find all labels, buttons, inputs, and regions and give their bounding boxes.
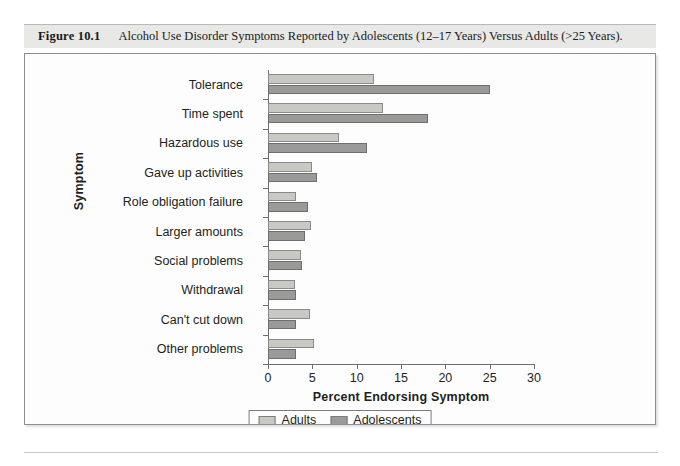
figure-caption-bar: Figure 10.1 Alcohol Use Disorder Symptom… xyxy=(24,24,656,48)
x-tick xyxy=(312,364,313,369)
bar-row: Role obligation failure xyxy=(25,188,655,217)
category-label: Time spent xyxy=(182,107,243,121)
bar-adolescents xyxy=(268,261,302,271)
legend-label: Adults xyxy=(282,413,317,425)
bar-group xyxy=(268,276,648,305)
x-tick xyxy=(268,364,269,369)
legend-item-adolescents: Adolescents xyxy=(330,413,421,425)
bar-adolescents xyxy=(268,114,428,124)
category-label: Larger amounts xyxy=(155,225,243,239)
x-tick xyxy=(534,364,535,369)
bar-group xyxy=(268,158,648,187)
legend-item-adults: Adults xyxy=(259,413,317,425)
bar-adults xyxy=(268,162,312,172)
x-tick xyxy=(445,364,446,369)
plot-area: Symptom ToleranceTime spentHazardous use… xyxy=(25,54,655,424)
bar-adolescents xyxy=(268,202,308,212)
legend-swatch-icon xyxy=(259,416,276,425)
category-label: Role obligation failure xyxy=(123,195,243,209)
x-tick-label: 25 xyxy=(483,371,497,385)
x-tick-label: 30 xyxy=(527,371,541,385)
bar-row: Withdrawal xyxy=(25,276,655,305)
bar-group xyxy=(268,129,648,158)
bar-adults xyxy=(268,192,296,202)
legend-label: Adolescents xyxy=(353,413,421,425)
bar-row: Time spent xyxy=(25,99,655,128)
category-label: Gave up activities xyxy=(144,166,243,180)
chart-legend: AdultsAdolescents xyxy=(249,410,432,425)
x-tick-label: 10 xyxy=(350,371,364,385)
bar-group xyxy=(268,305,648,334)
bar-adolescents xyxy=(268,143,367,153)
bar-adults xyxy=(268,339,314,349)
bar-adolescents xyxy=(268,85,490,95)
bar-group xyxy=(268,246,648,275)
x-tick-label: 20 xyxy=(438,371,452,385)
bar-adolescents xyxy=(268,231,305,241)
bar-adolescents xyxy=(268,173,317,183)
x-tick-label: 5 xyxy=(309,371,316,385)
x-tick xyxy=(357,364,358,369)
bar-adults xyxy=(268,74,374,84)
bar-adults xyxy=(268,250,301,260)
figure-number: Figure 10.1 xyxy=(38,29,100,44)
bar-adults xyxy=(268,103,383,113)
legend-swatch-icon xyxy=(330,416,347,425)
bar-row: Larger amounts xyxy=(25,217,655,246)
bar-adults xyxy=(268,309,310,319)
figure-caption-text: Alcohol Use Disorder Symptoms Reported b… xyxy=(118,29,622,44)
bar-adults xyxy=(268,133,339,143)
bar-row: Tolerance xyxy=(25,70,655,99)
category-label: Other problems xyxy=(157,342,243,356)
bar-rows: ToleranceTime spentHazardous useGave up … xyxy=(25,70,655,364)
bar-row: Gave up activities xyxy=(25,158,655,187)
bar-row: Hazardous use xyxy=(25,129,655,158)
x-axis-title: Percent Endorsing Symptom xyxy=(268,390,534,404)
chart-frame: Symptom ToleranceTime spentHazardous use… xyxy=(24,53,656,425)
bar-adolescents xyxy=(268,320,296,330)
x-tick xyxy=(401,364,402,369)
bar-adolescents xyxy=(268,290,296,300)
bar-group xyxy=(268,70,648,99)
category-label: Can't cut down xyxy=(161,313,243,327)
bar-group xyxy=(268,217,648,246)
bar-group xyxy=(268,335,648,364)
bar-adults xyxy=(268,221,311,231)
x-tick-label: 15 xyxy=(394,371,408,385)
x-tick-label: 0 xyxy=(265,371,272,385)
bar-row: Other problems xyxy=(25,335,655,364)
bar-row: Can't cut down xyxy=(25,305,655,334)
figure-container: Figure 10.1 Alcohol Use Disorder Symptom… xyxy=(24,24,656,428)
bar-group xyxy=(268,188,648,217)
bar-adults xyxy=(268,280,295,290)
page-bottom-rule xyxy=(24,452,658,453)
bar-adolescents xyxy=(268,349,296,359)
category-label: Hazardous use xyxy=(159,136,243,150)
category-label: Social problems xyxy=(154,254,243,268)
category-label: Withdrawal xyxy=(181,283,243,297)
x-tick xyxy=(490,364,491,369)
bar-group xyxy=(268,99,648,128)
bar-row: Social problems xyxy=(25,246,655,275)
category-label: Tolerance xyxy=(189,78,243,92)
